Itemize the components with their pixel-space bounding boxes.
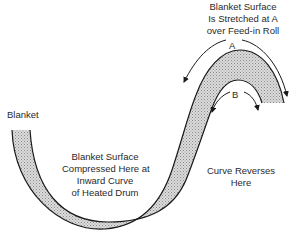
stretched-line-2: Is Stretched at A xyxy=(195,13,290,25)
point-b-label: B xyxy=(232,89,238,100)
stretched-line-1: Blanket Surface xyxy=(195,1,290,13)
stretched-line-3: over Feed-in Roll xyxy=(195,25,290,37)
stretched-annotation: Blanket Surface Is Stretched at A over F… xyxy=(195,1,290,37)
compressed-line-1: Blanket Surface xyxy=(62,151,148,163)
compressed-line-4: of Heated Drum xyxy=(62,187,148,199)
compressed-line-3: Inward Curve xyxy=(62,175,148,187)
reverses-line-2: Here xyxy=(196,177,286,189)
reverses-annotation: Curve Reverses Here xyxy=(196,165,286,189)
reverses-line-1: Curve Reverses xyxy=(196,165,286,177)
arrow-b-right xyxy=(244,92,258,110)
compressed-annotation: Blanket Surface Compressed Here at Inwar… xyxy=(62,151,148,199)
point-a-label: A xyxy=(229,40,235,51)
blanket-label: Blanket xyxy=(7,109,39,121)
compressed-line-2: Compressed Here at xyxy=(62,163,148,175)
blanket-band xyxy=(12,50,284,229)
